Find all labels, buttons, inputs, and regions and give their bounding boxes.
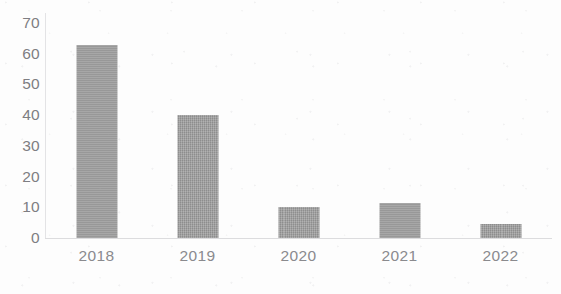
x-axis-tick-label: 2021 bbox=[349, 248, 450, 264]
x-axis-tick-label: 2022 bbox=[450, 248, 551, 264]
x-axis-tick-label: 2018 bbox=[46, 248, 147, 264]
y-axis-tick-label: 50 bbox=[6, 77, 40, 93]
y-axis-tick-labels: 706050403020100 bbox=[0, 0, 40, 294]
x-axis-tick-labels: 20182019202020212022 bbox=[46, 248, 551, 276]
y-axis-tick-label: 30 bbox=[6, 138, 40, 154]
bar bbox=[76, 45, 117, 239]
y-axis-tick-label: 0 bbox=[6, 230, 40, 246]
y-axis-tick-label: 10 bbox=[6, 200, 40, 216]
x-axis-tick-label: 2020 bbox=[248, 248, 349, 264]
x-axis-tick-label: 2019 bbox=[147, 248, 248, 264]
y-axis-tick-label: 70 bbox=[6, 15, 40, 31]
y-axis-tick-label: 40 bbox=[6, 107, 40, 123]
bar bbox=[379, 203, 420, 238]
bar bbox=[278, 207, 319, 238]
y-axis-tick-label: 60 bbox=[6, 46, 40, 62]
bar bbox=[480, 224, 521, 238]
y-axis-tick-label: 20 bbox=[6, 169, 40, 185]
bar-chart: 706050403020100 20182019202020212022 bbox=[0, 0, 561, 294]
bar bbox=[177, 115, 218, 238]
